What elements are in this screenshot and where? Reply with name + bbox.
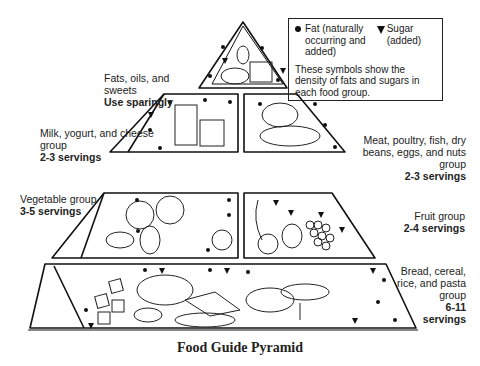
tier-fruit-outline <box>244 193 375 258</box>
label-milk: Milk, yogurt, and cheese group 2-3 servi… <box>40 127 160 163</box>
figure-caption: Food Guide Pyramid <box>0 340 480 356</box>
symbol-legend: Fat (naturally occurring and added) Suga… <box>288 18 443 101</box>
milk-servings: 2-3 servings <box>40 151 160 163</box>
meat-servings: 2-3 servings <box>348 170 466 182</box>
fats-name: Fats, oils, and sweets <box>104 72 169 96</box>
tier-fats-outline <box>199 22 287 88</box>
bread-name: Bread, cereal, rice, and pasta group <box>397 265 466 301</box>
veg-servings: 3-5 servings <box>20 205 110 217</box>
bread-servings-word: servings <box>384 313 466 325</box>
label-fats: Fats, oils, and sweets Use sparingly <box>104 72 204 108</box>
tier-bread-outline <box>30 264 416 328</box>
label-veg: Vegetable group 3-5 servings <box>20 193 110 217</box>
fats-servings: Use sparingly <box>104 96 204 108</box>
label-fruit: Fruit group 2-4 servings <box>370 210 465 234</box>
fruit-name: Fruit group <box>414 210 465 222</box>
milk-name: Milk, yogurt, and cheese group <box>40 127 154 151</box>
meat-name: Meat, poultry, fish, dry beans, eggs, an… <box>363 134 466 170</box>
fat-legend-item: Fat (naturally occurring and added) <box>295 23 377 58</box>
legend-note: These symbols show the density of fats a… <box>295 64 436 99</box>
bread-servings-count: 6-11 <box>384 301 466 313</box>
fruit-servings: 2-4 servings <box>370 222 465 234</box>
label-bread: Bread, cereal, rice, and pasta group 6-1… <box>384 265 466 325</box>
sugar-legend-item: Sugar (added) <box>377 23 436 58</box>
label-meat: Meat, poultry, fish, dry beans, eggs, an… <box>348 134 466 182</box>
veg-name: Vegetable group <box>20 193 96 205</box>
